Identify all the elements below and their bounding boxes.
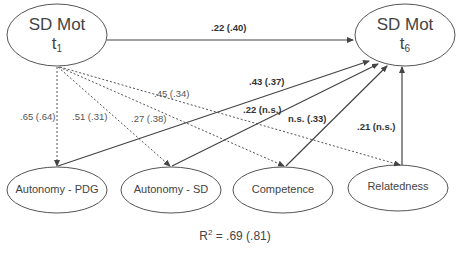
label-autonomy-sd: Autonomy - SD (121, 183, 221, 195)
label-sd-mot-t1-title: SD Mot (7, 15, 107, 34)
label-sd-mot-t6: SD Mot t6 (355, 15, 455, 58)
coef-t1-competence: .27 (.38) (131, 113, 166, 124)
coef-t1-relatedness: .45 (.34) (154, 88, 189, 99)
coef-autonomy-sd-t6: .22 (n.s.) (243, 104, 282, 115)
label-sd-mot-t6-title: SD Mot (355, 15, 455, 34)
coef-t1-autonomy-sd: .51 (.31) (72, 111, 107, 122)
coef-relatedness-t6: .21 (n.s.) (357, 121, 396, 132)
label-sd-mot-t1-time: t1 (7, 34, 107, 58)
label-relatedness: Relatedness (348, 180, 448, 192)
coef-competence-t6: n.s. (.33) (288, 113, 327, 124)
r-squared-label: R2 = .69 (.81) (175, 228, 295, 243)
coef-t1-t6: .22 (.40) (211, 22, 246, 33)
label-competence: Competence (233, 183, 333, 195)
coef-autonomy-pdg-t6: .43 (.37) (249, 76, 284, 87)
coef-t1-autonomy-pdg: .65 (.64) (20, 111, 55, 122)
label-sd-mot-t1: SD Mot t1 (7, 15, 107, 58)
label-autonomy-pdg: Autonomy - PDG (7, 183, 107, 195)
edge-t1-relatedness (60, 67, 400, 165)
label-sd-mot-t6-time: t6 (355, 34, 455, 58)
